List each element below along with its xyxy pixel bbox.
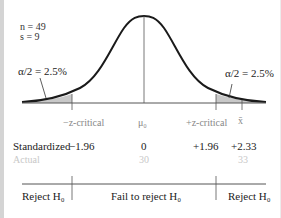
normal-curve-diagram [0, 0, 281, 218]
right-alpha-label: α/2 = 2.5% [225, 68, 274, 79]
standardized-row-label: Standardized [13, 141, 70, 152]
reject-left-label: Reject H₀ [22, 191, 65, 202]
mu0-label: μ₀ [138, 118, 147, 128]
actual-center: 30 [139, 155, 149, 165]
std-dev-label: s = 9 [20, 32, 40, 42]
standardized-center: 0 [141, 141, 147, 152]
actual-xbar: 33 [238, 155, 248, 165]
left-alpha-label: α/2 = 2.5% [18, 66, 67, 77]
standardized-pos-crit: +1.96 [193, 141, 218, 152]
pos-crit-label: +z-critical [186, 118, 227, 128]
left-alpha-pointer [40, 78, 46, 98]
standardized-xbar: +2.33 [231, 141, 256, 152]
xbar-label: x̄ [238, 116, 243, 126]
standardized-neg-crit: −1.96 [69, 141, 94, 152]
fail-to-reject-label: Fail to reject H₀ [111, 191, 181, 202]
actual-row-label: Actual [13, 155, 40, 165]
neg-crit-label: −z-critical [63, 118, 104, 128]
reject-right-label: Reject H₀ [228, 191, 271, 202]
